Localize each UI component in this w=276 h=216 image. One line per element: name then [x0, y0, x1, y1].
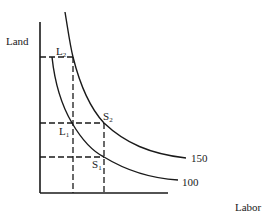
y-axis-label: Land — [6, 35, 29, 47]
point-L2-label: L2 — [56, 45, 67, 59]
isoquant-150-curve — [65, 12, 186, 158]
point-S1-label: S1 — [92, 158, 102, 172]
isoquant-100-label: 100 — [182, 176, 199, 188]
isoquant-150-label: 150 — [191, 152, 208, 164]
guide-lines — [40, 57, 104, 193]
isoquant-diagram: Land Labor 150 100 L2 L1 S2 S1 — [0, 0, 276, 216]
x-axis-label: Labor — [235, 201, 262, 213]
point-L1-label: L1 — [59, 125, 70, 139]
isoquant-100-curve — [52, 57, 178, 180]
point-S2-label: S2 — [103, 110, 113, 124]
